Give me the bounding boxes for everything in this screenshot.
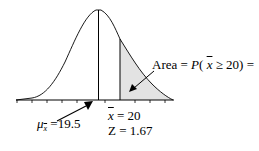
area-label: Area = P( x ≥ 20) = (152, 58, 254, 72)
z-label: Z = 1.67 (108, 124, 153, 138)
mean-label: μx =19.5 (37, 117, 80, 136)
area-open: ( (199, 57, 207, 72)
mean-value: =19.5 (47, 116, 80, 131)
xbar-label: x = 20 (108, 109, 141, 123)
z-value: = 1.67 (116, 123, 153, 138)
area-prefix: Area = (152, 57, 191, 72)
z-var: Z (108, 123, 116, 138)
area-rel: ≥ 20) = (212, 57, 254, 72)
xbar-value: = 20 (114, 108, 141, 123)
area-func: P (191, 57, 199, 72)
